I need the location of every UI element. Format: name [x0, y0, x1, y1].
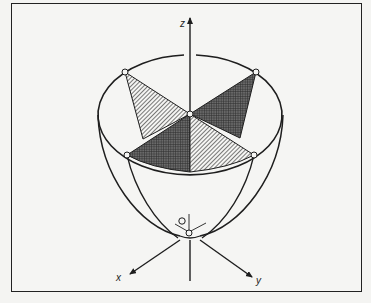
x-axis-label: x	[115, 272, 122, 283]
vertex-marker	[186, 230, 192, 236]
x-axis	[130, 240, 180, 274]
rim-point-front-right	[251, 152, 257, 158]
y-axis-label: y	[255, 275, 262, 286]
paraboloid-diagram: z x y	[0, 0, 371, 303]
rim-point-front-left	[124, 152, 130, 158]
rim-point-top-right	[253, 69, 259, 75]
rim-point-top-left	[122, 69, 128, 75]
z-axis-label: z	[179, 18, 185, 29]
y-axis	[200, 240, 252, 277]
center-point	[187, 111, 193, 117]
small-marker	[179, 218, 185, 224]
